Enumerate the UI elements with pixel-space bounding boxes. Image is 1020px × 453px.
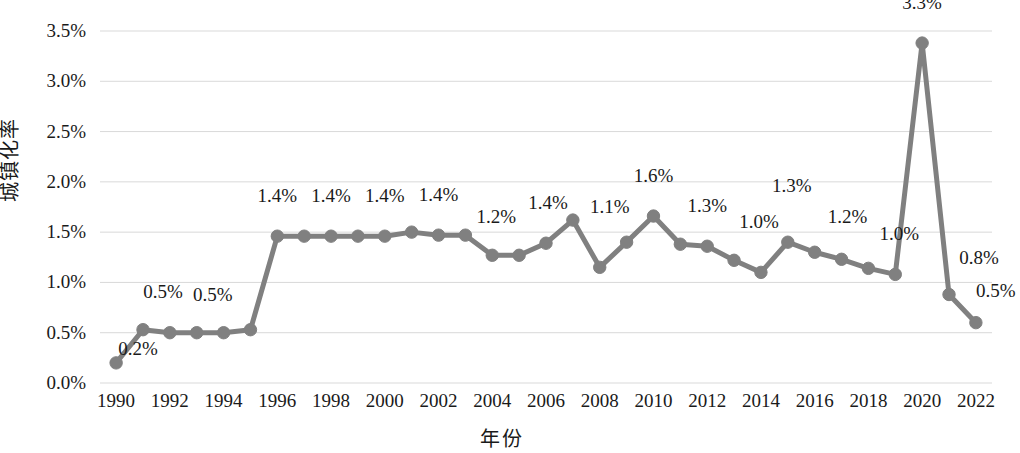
data-point-label: 1.3% <box>757 176 827 195</box>
data-point-label: 0.2% <box>103 339 173 358</box>
data-point-label: 3.3% <box>887 0 957 12</box>
data-point-label: 0.8% <box>944 248 1014 267</box>
x-axis-title: 年份 <box>0 423 1004 452</box>
data-point-label: 1.0% <box>864 224 934 243</box>
data-point-label: 0.5% <box>961 281 1020 300</box>
data-point-label: 1.0% <box>724 212 794 231</box>
data-point-label: 1.6% <box>618 166 688 185</box>
data-point-label: 1.4% <box>404 185 474 204</box>
data-point-label: 1.4% <box>513 193 583 212</box>
data-point-label: 0.5% <box>178 285 248 304</box>
data-point-label: 1.1% <box>575 197 645 216</box>
